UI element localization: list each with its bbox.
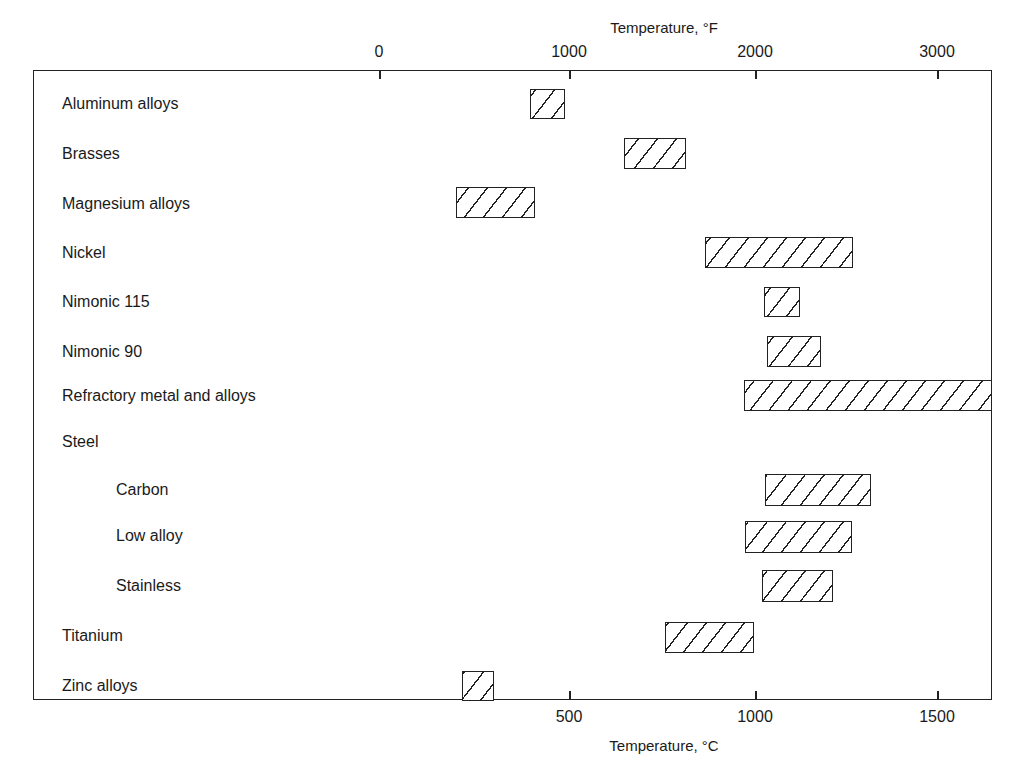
bottom-tick-mark xyxy=(569,691,571,699)
range-bar xyxy=(764,287,800,317)
bottom-tick-mark xyxy=(937,691,939,699)
range-bar xyxy=(462,671,494,701)
top-tick-mark xyxy=(379,71,381,79)
category-label: Zinc alloys xyxy=(62,677,138,695)
range-bar xyxy=(456,187,535,218)
top-tick-label: 0 xyxy=(375,43,384,61)
category-label: Magnesium alloys xyxy=(62,195,190,213)
bottom-tick-label: 500 xyxy=(556,708,583,726)
top-tick-label: 3000 xyxy=(919,43,955,61)
category-label: Nimonic 115 xyxy=(62,293,150,311)
range-bar xyxy=(530,89,565,119)
bottom-tick-label: 1000 xyxy=(737,708,773,726)
range-bar xyxy=(744,380,992,411)
category-label: Titanium xyxy=(62,627,123,645)
range-bar xyxy=(705,237,853,268)
range-bar xyxy=(624,138,686,169)
category-label: Stainless xyxy=(116,577,181,595)
category-label: Brasses xyxy=(62,145,120,163)
top-tick-mark xyxy=(937,71,939,79)
bottom-tick-label: 1500 xyxy=(919,708,955,726)
top-axis-title: Temperature, °F xyxy=(610,19,718,36)
range-bar xyxy=(665,622,754,653)
bottom-tick-mark xyxy=(755,691,757,699)
bottom-axis-title: Temperature, °C xyxy=(609,737,718,754)
range-bar xyxy=(745,521,852,553)
category-label: Nickel xyxy=(62,244,106,262)
category-label: Refractory metal and alloys xyxy=(62,387,256,405)
range-bar xyxy=(767,336,821,367)
top-tick-label: 1000 xyxy=(551,43,587,61)
range-bar xyxy=(762,570,833,602)
category-label: Aluminum alloys xyxy=(62,95,178,113)
top-tick-mark xyxy=(755,71,757,79)
category-label: Nimonic 90 xyxy=(62,343,142,361)
category-label: Low alloy xyxy=(116,527,183,545)
top-tick-mark xyxy=(569,71,571,79)
top-tick-label: 2000 xyxy=(737,43,773,61)
category-label: Steel xyxy=(62,433,98,451)
range-bar xyxy=(765,474,871,506)
category-label: Carbon xyxy=(116,481,168,499)
